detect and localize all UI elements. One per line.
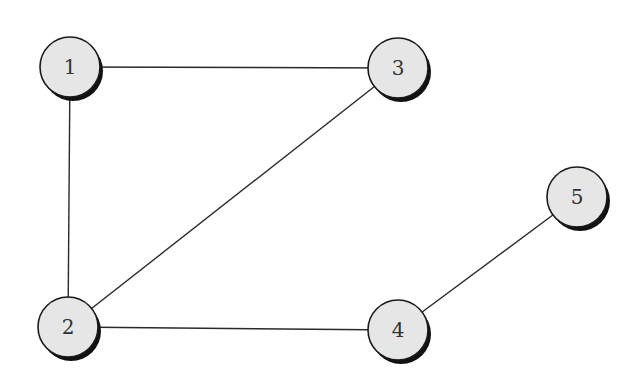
edge-4-5 bbox=[398, 197, 577, 330]
edge-1-2 bbox=[68, 67, 70, 327]
node-label: 1 bbox=[64, 55, 77, 79]
graph-diagram: 12345 bbox=[0, 0, 642, 389]
edge-1-3 bbox=[70, 67, 398, 68]
node-2: 2 bbox=[38, 297, 101, 361]
node-3: 3 bbox=[368, 38, 431, 102]
node-label: 5 bbox=[571, 185, 584, 209]
edges-layer bbox=[68, 67, 577, 330]
edge-2-4 bbox=[68, 327, 398, 330]
nodes-layer: 12345 bbox=[38, 37, 610, 364]
node-4: 4 bbox=[368, 300, 431, 364]
node-label: 4 bbox=[392, 318, 405, 342]
node-label: 2 bbox=[62, 315, 75, 339]
node-5: 5 bbox=[547, 167, 610, 231]
node-1: 1 bbox=[40, 37, 103, 101]
node-label: 3 bbox=[392, 56, 405, 80]
edge-2-3 bbox=[68, 68, 398, 327]
